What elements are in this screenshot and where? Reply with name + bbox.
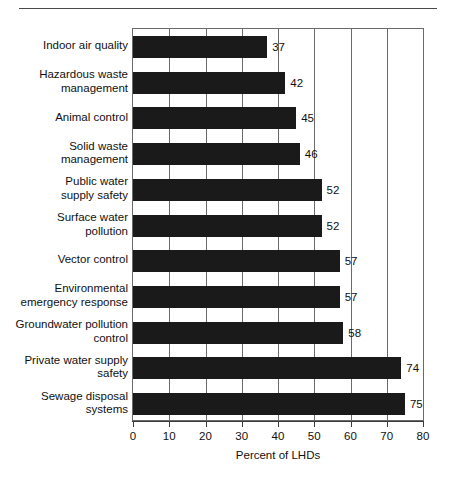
bar-value-label: 74 (406, 357, 419, 379)
category-label: Sewage disposal systems (0, 390, 128, 417)
bar (133, 36, 267, 58)
category-label: Vector control (0, 253, 128, 267)
bar-chart-figure: Indoor air qualityHazardous waste manage… (0, 0, 455, 477)
category-label: Indoor air quality (0, 39, 128, 53)
category-axis-labels: Indoor air qualityHazardous waste manage… (0, 28, 128, 421)
bar (133, 393, 405, 415)
category-label: Solid waste management (0, 140, 128, 167)
bar (133, 322, 343, 344)
x-axis-title: Percent of LHDs (132, 449, 424, 461)
bar-value-label: 58 (348, 322, 361, 344)
x-axis-tick-label: 0 (130, 430, 136, 442)
x-axis-tick-label: 10 (163, 430, 176, 442)
bar-value-label: 37 (272, 36, 285, 58)
category-label: Public water supply safety (0, 175, 128, 202)
bar-value-label: 75 (410, 393, 423, 415)
x-axis-tick-label: 40 (272, 430, 285, 442)
bar (133, 357, 401, 379)
x-axis-tick (278, 421, 279, 427)
bar (133, 179, 322, 201)
x-axis-tick-label: 50 (308, 430, 321, 442)
bar (133, 107, 296, 129)
x-axis-tick-label: 60 (344, 430, 357, 442)
bar-value-label: 45 (301, 107, 314, 129)
bar (133, 286, 340, 308)
bar-value-label: 42 (290, 72, 303, 94)
bar-value-label: 52 (327, 179, 340, 201)
top-horizontal-rule (19, 8, 437, 9)
category-label: Animal control (0, 111, 128, 125)
category-label: Surface water pollution (0, 211, 128, 238)
category-label: Groundwater pollution control (0, 318, 128, 345)
x-axis-tick (169, 421, 170, 427)
x-axis-tick (133, 421, 134, 427)
bar (133, 72, 285, 94)
x-axis-tick (351, 421, 352, 427)
x-axis-tick (423, 421, 424, 427)
category-label: Private water supply safety (0, 354, 128, 381)
bar-value-label: 46 (305, 143, 318, 165)
bar-value-label: 57 (345, 286, 358, 308)
x-axis-tick-label: 70 (380, 430, 393, 442)
bar-value-label: 57 (345, 250, 358, 272)
x-axis-tick (387, 421, 388, 427)
x-axis-tick-label: 30 (235, 430, 248, 442)
bar (133, 250, 340, 272)
x-axis-tick-label: 80 (417, 430, 430, 442)
bar (133, 143, 300, 165)
bar (133, 215, 322, 237)
x-axis-tick (206, 421, 207, 427)
x-axis-tick (314, 421, 315, 427)
plot-area: 3742454652525757587475 (132, 28, 424, 421)
category-label: Environmental emergency response (0, 282, 128, 309)
category-label: Hazardous waste management (0, 68, 128, 95)
x-axis-tick-label: 20 (199, 430, 212, 442)
bar-value-label: 52 (327, 215, 340, 237)
x-axis-tick (242, 421, 243, 427)
